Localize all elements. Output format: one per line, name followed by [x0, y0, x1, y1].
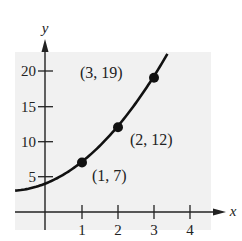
point-label-3-19: (3, 19): [80, 64, 123, 82]
y-tick-label-5: 5: [29, 169, 37, 185]
point-label-2-12: (2, 12): [130, 131, 173, 149]
data-point-1: [77, 158, 87, 168]
y-axis-arrow-icon: [42, 39, 49, 52]
x-axis-arrow-icon: [213, 209, 226, 216]
y-tick-label-15: 15: [21, 99, 36, 115]
y-tick-label-20: 20: [21, 63, 36, 79]
data-point-2: [113, 122, 123, 132]
data-point-3: [149, 73, 159, 83]
x-tick-label-2: 2: [114, 222, 122, 238]
chart: 20 15 10 5 y 1 2 3 4 x (1, 7) (2, 12) (3…: [0, 0, 242, 241]
point-label-1-7: (1, 7): [92, 167, 127, 185]
x-tick-label-1: 1: [78, 222, 86, 238]
y-tick-label-10: 10: [21, 134, 36, 150]
x-tick-label-3: 3: [150, 222, 158, 238]
x-tick-label-4: 4: [186, 222, 194, 238]
y-axis-label: y: [40, 20, 49, 36]
x-axis-label: x: [229, 203, 237, 219]
